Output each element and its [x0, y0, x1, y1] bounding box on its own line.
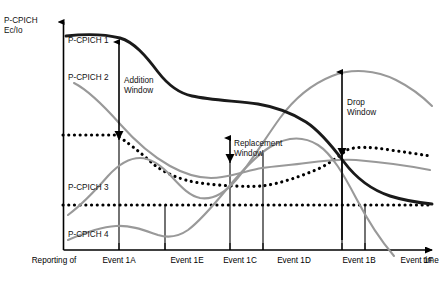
x-axis-ticks	[119, 243, 365, 250]
curve-label-p-cpich-2: P-CPICH 2	[68, 73, 109, 83]
curve-label-p-cpich-1: P-CPICH 1	[68, 36, 109, 46]
x-tick-event-1d: Event 1D	[262, 256, 326, 265]
replacement-window-label: Replacement Window	[234, 139, 282, 158]
curve-p-cpich-1	[66, 35, 432, 204]
curve-p-cpich-2	[74, 83, 430, 178]
curve-label-p-cpich-3: P-CPICH 3	[68, 183, 109, 193]
drop-window-label: Drop Window	[347, 98, 376, 117]
x-tick-event-1b: Event 1B	[327, 256, 391, 265]
x-tick-event-1a: Event 1A	[87, 256, 151, 265]
y-axis-label: P-CPICH Ec/Io	[4, 16, 38, 35]
curve-label-p-cpich-4: P-CPICH 4	[68, 230, 109, 240]
addition-window-label: Addition Window	[124, 76, 154, 95]
figure-canvas: P-CPICH Ec/Io P-CPICH 1 P-CPICH 2 P-CPIC…	[0, 0, 447, 286]
x-axis-label: time	[416, 256, 446, 265]
